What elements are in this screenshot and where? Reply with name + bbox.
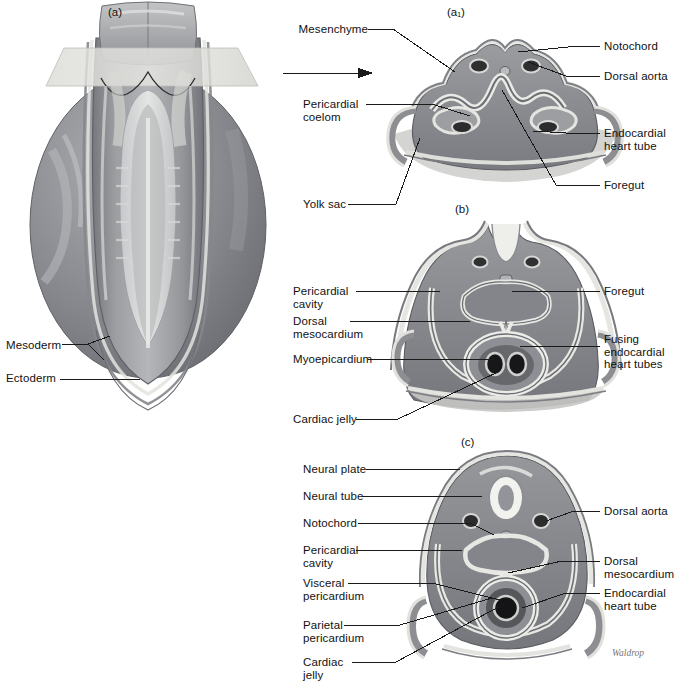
label-dorsal-aorta-c: Dorsal aorta [604, 505, 668, 518]
fusing-tube-right [508, 353, 526, 375]
panel-tag-b: (b) [455, 203, 469, 215]
label-foregut: Foregut [604, 179, 644, 192]
label-endocardial-heart-tube-c: Endocardial heart tube [604, 587, 666, 612]
fusing-tube-left [486, 353, 504, 375]
label-endocardial-heart-tube: Endocardial heart tube [604, 127, 666, 152]
section-plane [46, 48, 258, 86]
label-mesenchyme: Mesenchyme [268, 23, 368, 36]
dorsal-aorta-left-b [473, 257, 488, 268]
panel-tag-a1: (a₁) [447, 6, 465, 18]
label-visceral-pericardium: Visceral pericardium [303, 577, 364, 602]
label-pericardial-cavity: Pericardial cavity [293, 285, 348, 310]
dorsal-aorta-right-c [533, 514, 549, 528]
dorsal-aorta-right [522, 60, 540, 73]
label-yolk-sac: Yolk sac [303, 198, 346, 211]
panel-a1-illustration [380, 14, 630, 194]
label-pericardial-cavity-c: Pericardial cavity [303, 544, 358, 569]
dorsal-aorta-left-c [463, 514, 479, 528]
label-dorsal-aorta: Dorsal aorta [604, 70, 668, 83]
label-myoepicardium: Myoepicardium [293, 353, 372, 366]
label-dorsal-mesocardium-c: Dorsal mesocardium [604, 555, 674, 580]
label-dorsal-mesocardium: Dorsal mesocardium [293, 315, 363, 340]
foregut-c [465, 536, 546, 573]
artist-signature: Waldrop [612, 648, 644, 658]
label-mesoderm: Mesoderm [6, 339, 61, 352]
endocardial-tube-right [538, 121, 558, 133]
dorsal-aorta-right-b [525, 257, 540, 268]
label-fusing-endocardial-heart-tubes: Fusing endocardial heart tubes [604, 333, 665, 371]
panel-c-illustration [404, 450, 610, 668]
endocardial-tube-left [452, 121, 472, 133]
label-cardiac-jelly-c: Cardiac jelly [303, 656, 343, 681]
label-cardiac-jelly: Cardiac jelly [293, 413, 357, 426]
label-ectoderm: Ectoderm [6, 372, 56, 385]
panel-b-illustration [392, 218, 620, 428]
label-neural-tube: Neural tube [303, 490, 364, 503]
label-parietal-pericardium: Parietal pericardium [303, 619, 364, 644]
mesenchyme-mass [412, 44, 597, 170]
label-pericardial-coelom: Pericardial coelom [303, 98, 358, 123]
panel-tag-a: (a) [108, 6, 122, 18]
label-notochord: Notochord [604, 40, 658, 53]
endocardial-heart-tube-c-shape [494, 596, 518, 620]
label-notochord-c: Notochord [303, 517, 357, 530]
label-foregut-b: Foregut [604, 285, 644, 298]
label-neural-plate: Neural plate [303, 463, 366, 476]
dorsal-aorta-left [470, 60, 488, 73]
panel-a-illustration [0, 0, 300, 420]
panel-tag-c: (c) [461, 436, 474, 448]
